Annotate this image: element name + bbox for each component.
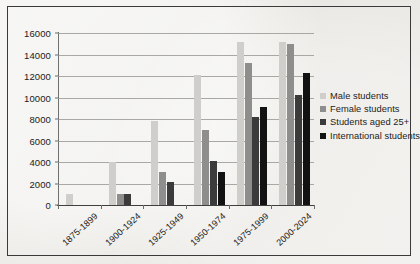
legend-label: International students bbox=[330, 131, 420, 141]
legend-item[interactable]: Female students bbox=[320, 104, 420, 114]
bar bbox=[202, 130, 209, 205]
bar-group bbox=[229, 33, 272, 205]
legend-item[interactable]: Male students bbox=[320, 91, 420, 101]
bar bbox=[151, 121, 158, 205]
chart-frame: 0200040006000800010000120001400016000 18… bbox=[7, 6, 411, 256]
legend-swatch-icon bbox=[320, 106, 326, 112]
y-tick-label: 2000 bbox=[29, 178, 51, 189]
y-tick-label: 4000 bbox=[29, 157, 51, 168]
bar bbox=[210, 161, 217, 205]
bar bbox=[237, 42, 244, 205]
x-tick-mark bbox=[314, 205, 315, 209]
x-tick-mark bbox=[58, 205, 59, 209]
x-tick-mark bbox=[186, 205, 187, 209]
x-tick-mark bbox=[271, 205, 272, 209]
y-tick-label: 12000 bbox=[24, 71, 51, 82]
x-tick-label: 1875-1899 bbox=[61, 211, 100, 248]
bar bbox=[218, 172, 225, 205]
bar bbox=[279, 42, 286, 205]
y-tick-label: 16000 bbox=[24, 28, 51, 39]
y-tick-label: 0 bbox=[46, 200, 51, 211]
bar-group bbox=[58, 33, 101, 205]
legend-swatch-icon bbox=[320, 119, 326, 125]
y-tick-label: 8000 bbox=[29, 114, 51, 125]
chart-figure: 0200040006000800010000120001400016000 18… bbox=[0, 0, 420, 264]
bar bbox=[167, 182, 174, 205]
x-tick-mark bbox=[101, 205, 102, 209]
bar bbox=[124, 194, 131, 205]
x-tick-label: 1925-1949 bbox=[146, 211, 185, 248]
legend-label: Students aged 25+ bbox=[330, 117, 409, 127]
legend-label: Male students bbox=[330, 91, 389, 101]
chart-legend: Male studentsFemale studentsStudents age… bbox=[320, 91, 420, 141]
bar bbox=[260, 107, 267, 205]
bar bbox=[303, 73, 310, 205]
x-tick-label: 1950-1974 bbox=[189, 211, 228, 248]
bar-group bbox=[271, 33, 314, 205]
y-tick-label: 6000 bbox=[29, 135, 51, 146]
bar bbox=[159, 172, 166, 205]
legend-item[interactable]: International students bbox=[320, 131, 420, 141]
legend-swatch-icon bbox=[320, 133, 326, 139]
x-tick-mark bbox=[229, 205, 230, 209]
bar bbox=[109, 162, 116, 205]
bar bbox=[252, 117, 259, 205]
x-tick-label: 1900-1924 bbox=[103, 211, 142, 248]
bar bbox=[117, 194, 124, 205]
plot-area: 0200040006000800010000120001400016000 18… bbox=[58, 33, 314, 205]
legend-item[interactable]: Students aged 25+ bbox=[320, 117, 420, 127]
bar bbox=[287, 44, 294, 205]
bar-group bbox=[101, 33, 144, 205]
bar bbox=[245, 63, 252, 205]
bar bbox=[66, 194, 73, 205]
x-tick-label: 2000-2024 bbox=[274, 211, 313, 248]
x-tick-label: 1975-1999 bbox=[231, 211, 270, 248]
bar bbox=[295, 95, 302, 205]
y-tick-label: 14000 bbox=[24, 49, 51, 60]
bar-group bbox=[186, 33, 229, 205]
bar bbox=[194, 75, 201, 205]
y-tick-label: 10000 bbox=[24, 92, 51, 103]
legend-label: Female students bbox=[330, 104, 399, 114]
x-tick-mark bbox=[143, 205, 144, 209]
bar-group bbox=[143, 33, 186, 205]
legend-swatch-icon bbox=[320, 93, 326, 99]
